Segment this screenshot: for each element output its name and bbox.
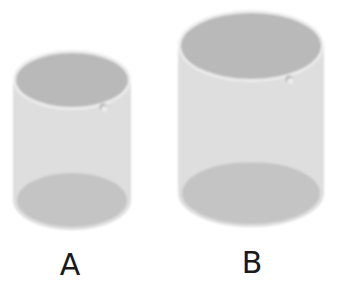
beaker-b-label: B — [242, 248, 263, 278]
beaker-base — [17, 173, 127, 227]
beakers-diagram — [0, 0, 344, 281]
beaker-a-label: A — [60, 250, 81, 280]
beaker-opening — [181, 13, 321, 79]
beaker-opening — [16, 53, 128, 107]
beaker-a — [13, 50, 131, 230]
beaker-spout-lip — [102, 106, 108, 112]
beaker-spout-lip — [288, 78, 294, 84]
beaker-b — [178, 10, 324, 227]
beaker-base — [182, 162, 320, 224]
